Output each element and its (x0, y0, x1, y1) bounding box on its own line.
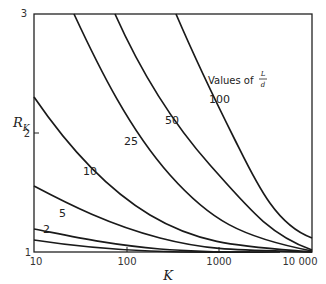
curve-label-25: 25 (124, 135, 138, 148)
curve-label-2: 2 (43, 223, 50, 236)
curve-25 (74, 14, 312, 251)
curve-label-100: 100 (209, 93, 230, 106)
curve-label-5: 5 (59, 207, 66, 220)
chart: 3 2 1 10 100 1000 10 000 K RK 2 5 10 25 … (0, 0, 326, 284)
x-axis-label: K (162, 268, 174, 283)
y-axis-label-sub: K (22, 123, 31, 133)
legend-title: Values of (208, 75, 254, 86)
curve-label-50: 50 (165, 114, 179, 127)
legend-fraction-numerator: L (260, 70, 266, 78)
curve-5 (34, 186, 312, 252)
y-tick-label-3: 3 (21, 8, 27, 19)
x-tick-label-10: 10 (30, 256, 43, 267)
plot-frame (34, 14, 312, 252)
curve-2 (34, 229, 280, 252)
legend-fraction-denominator: d (261, 81, 266, 89)
legend-fraction: L d (259, 70, 267, 89)
curve-100 (176, 14, 312, 238)
x-tick-label-100: 100 (117, 256, 136, 267)
curves (34, 14, 312, 252)
y-axis-label-main: R (12, 115, 23, 130)
x-tick-label-10000: 10 000 (283, 256, 318, 267)
y-axis-label: RK (12, 115, 31, 133)
curve-label-10: 10 (83, 165, 97, 178)
x-tick-label-1000: 1000 (206, 256, 231, 267)
